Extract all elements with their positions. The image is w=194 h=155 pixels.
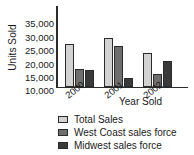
y-axis-tick: 25,000 [25,46,54,55]
bar [143,53,152,87]
legend-item: West Coast sales force [58,126,177,139]
legend-swatch [58,116,68,123]
legend-item: Midwest sales force [58,139,177,152]
legend-label: West Coast sales force [74,127,177,138]
legend-label: Total Sales [74,114,123,125]
plot-area [56,6,188,88]
y-axis-tick-labels: 10,00015,00020,00025,00030,00035,000 [14,12,54,86]
bar [85,70,94,86]
legend-label: Midwest sales force [74,140,162,151]
y-axis-tick: 20,000 [25,59,54,68]
bar-chart: Units Sold 10,00015,00020,00025,00030,00… [0,0,194,155]
y-axis-tick: 15,000 [25,73,54,82]
legend-item: Total Sales [58,113,177,126]
chart-legend: Total SalesWest Coast sales forceMidwest… [58,113,177,152]
bar [104,38,113,86]
bar-group [104,6,134,87]
legend-swatch [58,142,68,149]
legend-swatch [58,129,68,136]
bar [65,44,74,87]
bar-group [143,6,173,87]
x-axis-label: Year Sold [119,96,162,107]
y-axis-tick: 10,000 [25,86,54,95]
y-axis-tick: 35,000 [25,19,54,28]
bar-group [65,6,95,87]
bar [124,78,133,86]
y-axis-line [56,6,58,88]
bar [163,61,172,86]
y-axis-tick: 30,000 [25,32,54,41]
